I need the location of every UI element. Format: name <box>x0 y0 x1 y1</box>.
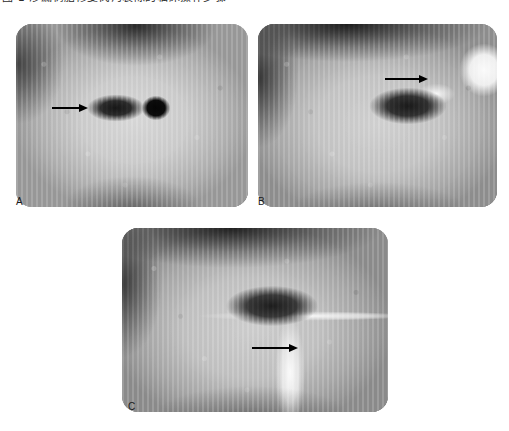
figure-caption-text: 图 1 渗漏树脂修复窝沟裂隙的临床操作步骤 <box>2 0 227 4</box>
figure-caption-strip: 图 1 渗漏树脂修复窝沟裂隙的临床操作步骤 <box>0 0 509 9</box>
panel-a-specular-highlights <box>16 24 248 207</box>
figure-panel-a <box>16 24 248 207</box>
panel-c-arrow-head <box>289 344 298 352</box>
panel-a-arrow-shaft <box>52 107 80 109</box>
figure-panel-c <box>122 228 388 412</box>
panel-c-specular-highlights <box>122 228 388 412</box>
panel-b-arrow-shaft <box>385 78 420 80</box>
panel-c-photograph <box>122 228 388 412</box>
panel-c-label: C <box>128 401 136 412</box>
panel-a-arrow-head <box>79 104 88 112</box>
panel-b-label: B <box>258 196 265 207</box>
figure-panel-b <box>258 24 497 207</box>
figure-root: 图 1 渗漏树脂修复窝沟裂隙的临床操作步骤 A B <box>0 0 509 431</box>
panel-a-label: A <box>16 196 23 207</box>
panel-b-arrow-head <box>419 75 428 83</box>
panel-b-photograph <box>258 24 497 207</box>
panel-c-arrow-shaft <box>252 347 290 349</box>
panel-b-specular-highlights <box>258 24 497 207</box>
panel-a-photograph <box>16 24 248 207</box>
